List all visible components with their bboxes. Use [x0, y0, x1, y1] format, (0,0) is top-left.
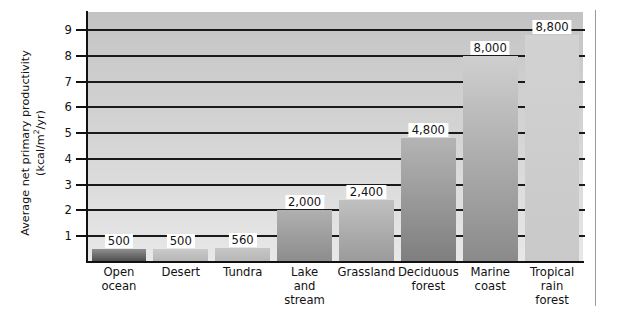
- y-axis-tick-label: 2: [44, 203, 72, 217]
- y-axis-tick-label: 9: [44, 23, 72, 37]
- y-axis-tick-label: 6: [44, 100, 72, 114]
- x-axis-category-label-line: Tropical: [515, 266, 589, 280]
- x-axis-category-label-line: ocean: [82, 280, 156, 294]
- bar-value-label: 560: [229, 233, 257, 247]
- bar-value-label: 500: [167, 234, 195, 248]
- bar: 8,000: [463, 56, 518, 262]
- y-axis-line: [86, 11, 88, 263]
- bar-value-label: 8,000: [471, 41, 510, 55]
- bar-value-label: 2,400: [347, 185, 386, 199]
- bar: 8,800: [525, 35, 580, 262]
- y-axis-title-line1: Average net primary productivity: [19, 50, 34, 236]
- x-axis-category-label-line: stream: [268, 294, 342, 308]
- bars-layer: 5005005602,0002,4004,8008,0008,800: [88, 12, 583, 262]
- x-axis-category-label: Tropicalrainforest: [515, 266, 589, 308]
- bar-value-label: 500: [105, 234, 133, 248]
- y-axis-tick-label: 1: [44, 229, 72, 243]
- y-axis-tick-label: 3: [44, 178, 72, 192]
- bar-value-label: 2,000: [285, 195, 324, 209]
- y-axis-tick-label: 8: [44, 49, 72, 63]
- y-axis-title-line2: (kcal/m2/yr): [34, 110, 49, 176]
- x-axis-category-label-line: rain: [515, 280, 589, 294]
- x-axis-category-label-line: and: [268, 280, 342, 294]
- bar-value-label: 4,800: [409, 123, 448, 137]
- bar: 2,000: [277, 210, 332, 262]
- x-axis-category-label-line: forest: [515, 294, 589, 308]
- y-axis-tick-label: 5: [44, 126, 72, 140]
- bar: 2,400: [339, 200, 394, 262]
- y-axis-tick-label: 4: [44, 152, 72, 166]
- bar-value-label: 8,800: [532, 20, 571, 34]
- bar: 4,800: [401, 138, 456, 262]
- y-axis-title-unit-exponent: 2: [32, 129, 41, 134]
- y-axis-tick-label: 7: [44, 75, 72, 89]
- chart-figure: Average net primary productivity (kcal/m…: [0, 0, 617, 314]
- bar: 560: [215, 248, 270, 262]
- page-gutter-rule: [595, 10, 596, 306]
- x-axis-line: [86, 261, 584, 263]
